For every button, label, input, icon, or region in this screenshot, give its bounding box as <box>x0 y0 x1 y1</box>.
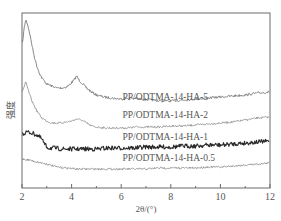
x-tick-label: 12 <box>265 191 275 202</box>
series-label: PP/ODTMA-14-HA-5 <box>122 92 208 102</box>
x-axis-label: 2θ/(°) <box>136 204 157 214</box>
xrd-chart: 24681012 PP/ODTMA-14-HA-5PP/ODTMA-14-HA-… <box>0 0 281 221</box>
series-label: PP/ODTMA-14-HA-1 <box>122 132 208 142</box>
series-labels: PP/ODTMA-14-HA-5PP/ODTMA-14-HA-2PP/ODTMA… <box>122 92 215 163</box>
x-axis-tick-labels: 24681012 <box>20 191 276 202</box>
y-axis-label: 强度 <box>5 101 16 119</box>
curve-pp-odtma-14-ha-2 <box>23 82 270 129</box>
series-label: PP/ODTMA-14-HA-0.5 <box>122 153 215 163</box>
x-tick-label: 10 <box>215 191 225 202</box>
series-label: PP/ODTMA-14-HA-2 <box>122 110 208 120</box>
x-tick-label: 2 <box>20 191 25 202</box>
x-axis-ticks <box>22 184 270 188</box>
x-tick-label: 8 <box>168 191 173 202</box>
x-tick-label: 4 <box>69 191 74 202</box>
curve-pp-odtma-14-ha-5 <box>23 20 270 102</box>
x-tick-label: 6 <box>119 191 124 202</box>
